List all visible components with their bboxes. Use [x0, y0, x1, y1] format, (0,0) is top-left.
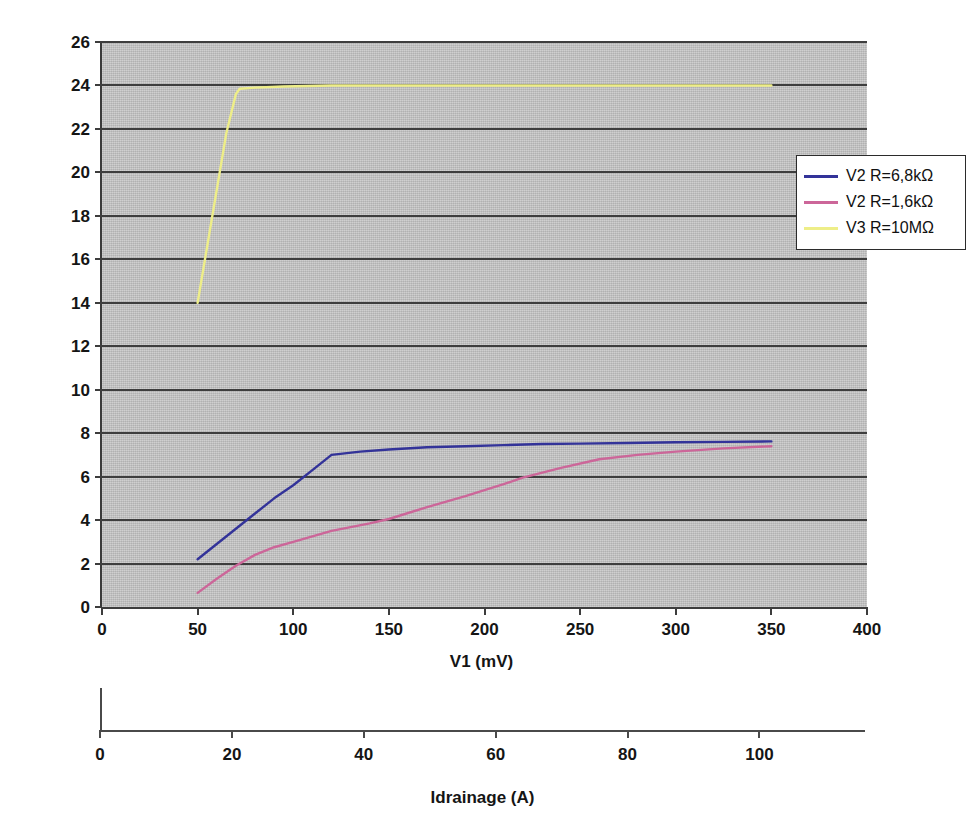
legend-label-v3-10m: V3 R=10MΩ [846, 219, 934, 237]
data-series-layer [102, 42, 867, 607]
secondary-tick-mark [231, 730, 233, 738]
x-tick-mark [579, 607, 581, 615]
y-tick-label: 2 [30, 556, 90, 573]
legend-item-v3-10m: V3 R=10MΩ [797, 215, 965, 241]
y-tick-mark [95, 171, 102, 173]
y-tick-mark [95, 41, 102, 43]
secondary-tick-mark [627, 730, 629, 738]
legend-label-v2-68k: V2 R=6,8kΩ [846, 167, 933, 185]
x-tick-mark [388, 607, 390, 615]
y-tick-mark [95, 215, 102, 217]
x-tick-label: 0 [67, 620, 137, 640]
x-tick-mark [675, 607, 677, 615]
secondary-axis: 020406080100 Idrainage (A) [100, 688, 865, 808]
y-tick-mark [95, 519, 102, 521]
x-tick-label: 100 [258, 620, 328, 640]
secondary-tick-label: 100 [724, 745, 794, 765]
y-tick-label: 10 [30, 382, 90, 399]
y-tick-mark [95, 476, 102, 478]
secondary-tick-mark [495, 730, 497, 738]
x-tick-label: 400 [832, 620, 902, 640]
y-tick-label: 0 [30, 599, 90, 616]
y-tick-mark [95, 432, 102, 434]
y-tick-label: 8 [30, 425, 90, 442]
x-tick-label: 300 [641, 620, 711, 640]
legend-swatch-yellow [804, 227, 838, 230]
secondary-tick-mark [99, 730, 101, 738]
legend-item-v2-16k: V2 R=1,6kΩ [797, 189, 965, 215]
x-tick-label: 50 [163, 620, 233, 640]
y-tick-label: 14 [30, 295, 90, 312]
secondary-tick-label: 60 [461, 745, 531, 765]
x-tick-label: 150 [354, 620, 424, 640]
legend-swatch-blue [804, 175, 838, 178]
legend-label-v2-16k: V2 R=1,6kΩ [846, 193, 933, 211]
secondary-axis-vertical-stub [100, 688, 102, 732]
secondary-axis-line [100, 730, 865, 732]
x-axis-title: V1 (mV) [0, 652, 903, 672]
series-line-2 [198, 85, 772, 302]
x-tick-label: 250 [545, 620, 615, 640]
plot-area: 02468101214161820222426 0501001502002503… [100, 42, 867, 607]
x-tick-mark [484, 607, 486, 615]
x-tick-mark [770, 607, 772, 615]
y-tick-mark [95, 84, 102, 86]
x-tick-label: 350 [736, 620, 806, 640]
y-tick-label: 18 [30, 208, 90, 225]
series-line-0 [198, 441, 772, 559]
legend-item-v2-68k: V2 R=6,8kΩ [797, 163, 965, 189]
legend: V2 R=6,8kΩ V2 R=1,6kΩ V3 R=10MΩ [796, 155, 966, 250]
secondary-tick-label: 20 [197, 745, 267, 765]
y-tick-mark [95, 128, 102, 130]
y-tick-label: 12 [30, 338, 90, 355]
y-tick-mark [95, 302, 102, 304]
y-tick-label: 20 [30, 164, 90, 181]
x-tick-mark [101, 607, 103, 615]
x-tick-mark [197, 607, 199, 615]
secondary-axis-title: Idrainage (A) [100, 788, 865, 808]
y-tick-label: 6 [30, 469, 90, 486]
y-tick-label: 24 [30, 77, 90, 94]
y-tick-label: 26 [30, 34, 90, 51]
y-tick-mark [95, 345, 102, 347]
secondary-tick-mark [758, 730, 760, 738]
secondary-tick-label: 80 [593, 745, 663, 765]
secondary-tick-label: 40 [329, 745, 399, 765]
x-tick-label: 200 [450, 620, 520, 640]
series-line-1 [198, 446, 772, 593]
x-tick-mark [292, 607, 294, 615]
y-tick-mark [95, 258, 102, 260]
secondary-tick-mark [363, 730, 365, 738]
y-tick-mark [95, 563, 102, 565]
y-tick-label: 16 [30, 251, 90, 268]
y-tick-label: 22 [30, 121, 90, 138]
y-tick-label: 4 [30, 512, 90, 529]
x-tick-mark [866, 607, 868, 615]
secondary-tick-label: 0 [65, 745, 135, 765]
y-tick-mark [95, 389, 102, 391]
legend-swatch-pink [804, 201, 838, 204]
